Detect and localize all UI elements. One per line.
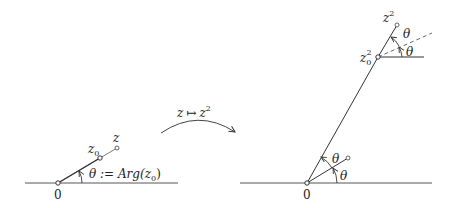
- left-z0-label: z0: [87, 142, 99, 158]
- left-diagram: 0 z0 z θ := Arg(z0): [25, 131, 178, 202]
- left-z-point: [115, 146, 119, 150]
- right-top-arc-lower-icon: [399, 47, 402, 57]
- right-top-theta-upper: θ: [403, 27, 411, 41]
- left-z-label: z: [112, 131, 120, 145]
- z0sq-label: z02: [359, 48, 372, 67]
- right-top-arc-upper-icon: [391, 37, 399, 46]
- zsq-label: z2: [382, 9, 394, 25]
- mapping-label: z↦z2: [176, 104, 211, 120]
- curved-arrow-icon: [161, 120, 235, 133]
- right-ray-z0sq: [307, 57, 378, 183]
- right-origin-point: [305, 181, 309, 185]
- right-top-ray-zsq: [378, 25, 397, 57]
- left-angle-arc-icon: [79, 171, 82, 183]
- right-theta-lower: θ: [340, 169, 348, 183]
- right-top-theta-lower: θ: [406, 45, 414, 59]
- zsq-point: [395, 23, 399, 27]
- left-origin-point: [56, 181, 60, 185]
- right-theta-upper: θ: [332, 152, 340, 166]
- z0sq-point: [376, 55, 380, 59]
- right-angle-arc-lower-icon: [333, 168, 337, 183]
- diagram-canvas: 0 z0 z θ := Arg(z0) z↦z2 0 θ θ z02 z2 θ …: [0, 0, 452, 208]
- right-z0-point: [346, 156, 350, 160]
- right-angle-arc-upper-icon: [321, 157, 332, 168]
- left-origin-label: 0: [54, 188, 62, 202]
- mapping-arrow: z↦z2: [161, 104, 235, 133]
- right-diagram: 0 θ θ z02 z2 θ θ: [240, 9, 432, 202]
- right-origin-label: 0: [303, 188, 311, 202]
- left-angle-label: θ := Arg(z0): [89, 167, 161, 183]
